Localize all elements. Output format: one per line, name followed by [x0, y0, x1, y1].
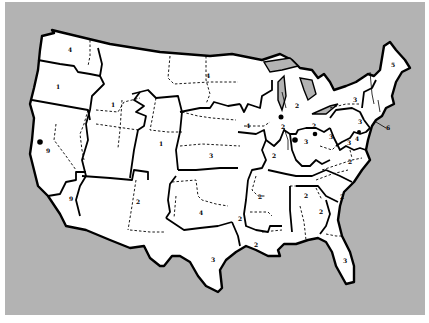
city-marker-columbus: [313, 132, 318, 137]
city-marker-chicago: [279, 115, 284, 120]
city-marker-baltimore: [357, 130, 361, 134]
region-label: 2: [136, 198, 140, 205]
region-label: 5: [391, 61, 395, 68]
city-marker-indianapolis: [292, 137, 298, 143]
us-landmass: [30, 30, 410, 292]
region-label: 4: [199, 209, 203, 216]
region-label: 2: [258, 193, 262, 200]
region-label: 2: [281, 123, 285, 130]
region-label: 2: [312, 122, 316, 129]
region-label: 4: [206, 72, 210, 79]
region-label: 2: [348, 158, 352, 165]
region-label: 4: [246, 122, 250, 129]
region-label: 2: [238, 215, 242, 222]
region-label: 3: [343, 257, 347, 264]
region-label: 2: [304, 192, 308, 199]
region-label: 3: [353, 96, 357, 103]
region-label: 2: [254, 241, 258, 248]
city-marker-san-francisco: [37, 139, 43, 145]
region-label: 6: [386, 124, 390, 131]
region-label: 3: [329, 133, 333, 140]
region-label: 2: [272, 152, 276, 159]
region-label: 1: [159, 140, 163, 147]
region-label: 1: [56, 83, 60, 90]
region-label: 3: [358, 118, 362, 125]
region-label: 3: [304, 138, 308, 145]
region-label: 3: [209, 152, 213, 159]
us-region-map: 4 1 1 4 1 9 9 3 2 4 3 2 4 2 2 3 2 2 2 2 …: [0, 0, 429, 323]
region-label: 2: [295, 102, 299, 109]
region-label: 3: [211, 256, 215, 263]
region-label: 9: [46, 147, 50, 154]
region-label: 1: [111, 101, 115, 108]
region-label: 4: [355, 135, 359, 142]
region-label: 2: [340, 193, 344, 200]
region-label: 3: [347, 139, 351, 146]
region-label: 9: [69, 195, 73, 202]
region-label: 4: [68, 46, 72, 53]
region-label: 2: [319, 208, 323, 215]
